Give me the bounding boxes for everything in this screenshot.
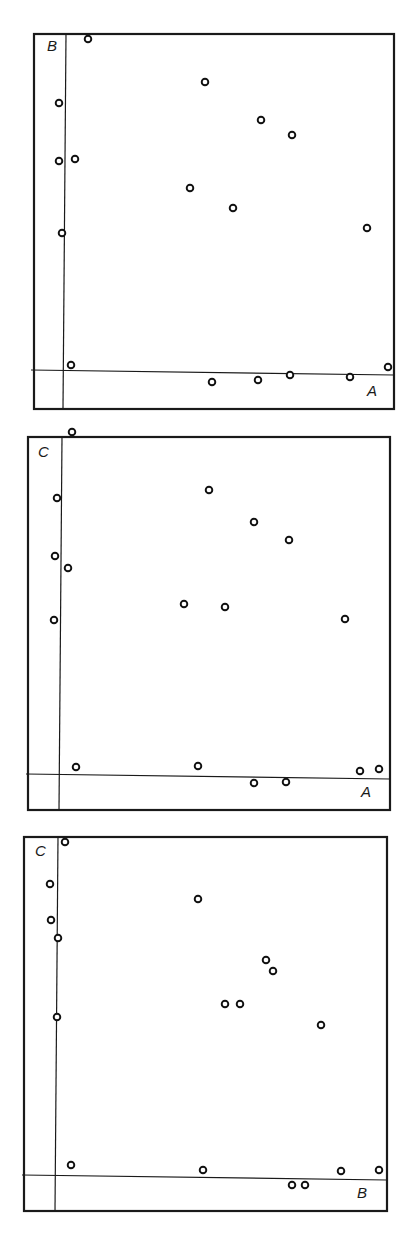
data-point-marker	[73, 764, 80, 771]
data-point-marker	[318, 1022, 325, 1029]
data-point-marker	[181, 601, 188, 608]
data-point-marker	[85, 36, 92, 43]
data-point-marker	[251, 519, 258, 526]
x-axis-label: A	[361, 784, 371, 799]
scatter-panel-a-vs-b: B A	[34, 34, 394, 409]
data-point-marker	[338, 1168, 345, 1175]
scatter-plot-area	[24, 837, 387, 1211]
data-point-marker	[347, 374, 354, 381]
scatter-panel-b-vs-c: C B	[24, 837, 387, 1211]
scatter-panel-a-vs-c: C A	[28, 437, 390, 810]
data-point-marker	[54, 1014, 61, 1021]
data-point-marker	[222, 604, 229, 611]
data-point-marker	[209, 379, 216, 386]
data-point-marker	[255, 377, 262, 384]
data-point-marker	[376, 766, 383, 773]
data-point-marker	[52, 553, 59, 560]
data-point-marker	[222, 1001, 229, 1008]
data-point-marker	[283, 779, 290, 786]
x-axis-label: B	[357, 1185, 367, 1200]
data-point-marker	[206, 487, 213, 494]
data-points	[47, 839, 383, 1189]
data-point-marker	[302, 1182, 309, 1189]
scatter-plot-area	[28, 437, 390, 810]
data-point-marker	[69, 429, 76, 436]
data-point-marker	[187, 185, 194, 192]
data-point-marker	[51, 617, 58, 624]
data-point-marker	[195, 763, 202, 770]
data-point-marker	[62, 839, 69, 846]
y-axis-label: C	[38, 444, 49, 459]
data-point-marker	[68, 1162, 75, 1169]
data-point-marker	[72, 156, 79, 163]
scatter-plot-area	[34, 34, 394, 409]
data-point-marker	[59, 230, 66, 237]
data-point-marker	[342, 616, 349, 623]
data-point-marker	[263, 957, 270, 964]
data-point-marker	[237, 1001, 244, 1008]
data-point-marker	[56, 158, 63, 165]
x-axis-line	[31, 370, 394, 375]
y-axis-line	[55, 837, 58, 1211]
y-axis-label: B	[47, 38, 57, 53]
plot-frame	[24, 837, 387, 1211]
data-point-marker	[385, 364, 392, 371]
x-axis-label: A	[367, 383, 377, 398]
y-axis-line	[59, 437, 62, 810]
data-point-marker	[56, 100, 63, 107]
data-points	[51, 429, 383, 787]
data-point-marker	[258, 117, 265, 124]
data-point-marker	[287, 372, 294, 379]
data-point-marker	[54, 495, 61, 502]
x-axis-line	[22, 1175, 387, 1180]
data-point-marker	[286, 537, 293, 544]
data-point-marker	[289, 1182, 296, 1189]
data-point-marker	[270, 968, 277, 975]
data-points	[56, 36, 392, 386]
data-point-marker	[202, 79, 209, 86]
data-point-marker	[195, 896, 202, 903]
data-point-marker	[65, 565, 72, 572]
data-point-marker	[357, 768, 364, 775]
data-point-marker	[376, 1167, 383, 1174]
data-point-marker	[230, 205, 237, 212]
y-axis-label: C	[35, 843, 46, 858]
x-axis-line	[26, 774, 390, 779]
plot-frame	[34, 34, 394, 409]
data-point-marker	[289, 132, 296, 139]
y-axis-line	[63, 34, 66, 409]
data-point-marker	[200, 1167, 207, 1174]
data-point-marker	[364, 225, 371, 232]
data-point-marker	[55, 935, 62, 942]
data-point-marker	[48, 917, 55, 924]
data-point-marker	[251, 780, 258, 787]
data-point-marker	[47, 881, 54, 888]
data-point-marker	[68, 362, 75, 369]
